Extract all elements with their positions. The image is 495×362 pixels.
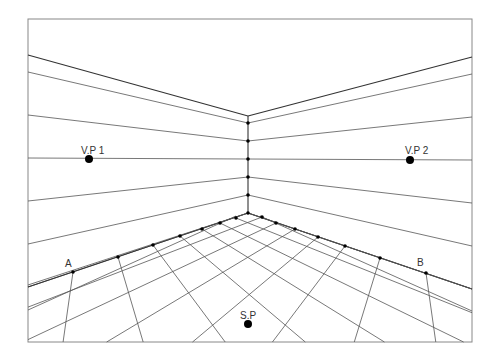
floor-right-dot: [260, 215, 264, 219]
right-wall-line: [248, 74, 472, 123]
floor-grid-line-b: [107, 229, 295, 342]
right-wall-line: [248, 177, 472, 203]
floor-right-dot: [274, 221, 278, 225]
left-wall-line: [28, 72, 248, 123]
wall-perspective-lines: [28, 55, 472, 289]
floor-right-dot: [343, 244, 347, 248]
floor-grid-line-b: [28, 223, 276, 340]
sp-dot: [244, 320, 252, 328]
left-wall-line: [28, 177, 248, 201]
floor-grid-line-b: [272, 246, 345, 342]
floor-grid-line-a: [202, 229, 384, 342]
vp2-label: V.P 2: [405, 146, 428, 156]
wall-measure-dot: [246, 211, 250, 215]
point-a-label: A: [65, 259, 72, 269]
wall-measure-dot: [246, 175, 250, 179]
ceiling-left-edge: [28, 55, 248, 116]
floor-grid-line-a: [118, 257, 143, 342]
floor-grid-line-b: [260, 216, 472, 311]
left-wall-line: [28, 158, 248, 159]
floor-right-dot: [316, 235, 320, 239]
floor-left-dot: [151, 243, 155, 247]
floor-grid-line-a: [153, 245, 225, 342]
floor-grid-line-b: [426, 273, 436, 342]
floor-left-dot: [234, 216, 238, 220]
floor-grid-line-b: [28, 217, 262, 307]
point-b-label: B: [417, 258, 424, 268]
wall-measure-dot: [246, 157, 250, 161]
floor-right-dot: [424, 271, 428, 275]
floor-left-dot: [200, 227, 204, 231]
floor-left-dot: [218, 221, 222, 225]
wall-measure-dot: [246, 121, 250, 125]
vp1-label: V.P 1: [81, 146, 104, 156]
floor-grid-line-a: [63, 272, 73, 342]
right-wall-line: [248, 117, 472, 141]
sp-label: S.P: [240, 311, 256, 321]
floor-left-dot: [178, 234, 182, 238]
wall-measure-dot: [246, 193, 250, 197]
floor-grid-line-a: [28, 216, 236, 310]
floor-left-dot: [116, 255, 120, 259]
floor-grid-line-a: [180, 236, 305, 342]
right-wall-line: [248, 159, 472, 160]
floor-left-dot: [71, 270, 75, 274]
left-wall-line: [28, 115, 248, 141]
floor-grid-line-a: [236, 218, 472, 313]
floor-right-dot: [378, 256, 382, 260]
floor-grid-line-a: [248, 213, 472, 289]
floor-right-dot: [293, 227, 297, 231]
perspective-diagram: [0, 0, 495, 362]
measure-dots: [71, 121, 428, 328]
vp1-dot: [85, 155, 93, 163]
wall-measure-dot: [246, 139, 250, 143]
vp2-dot: [406, 156, 414, 164]
floor-grid-line-b: [28, 213, 248, 285]
ceiling-right-edge: [248, 57, 472, 116]
right-wall-line: [248, 195, 472, 246]
